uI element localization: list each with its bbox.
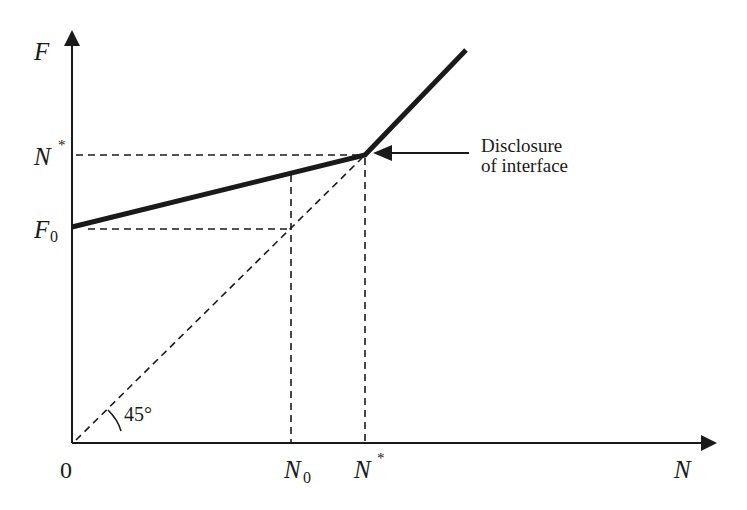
x-tick-n0: N 0: [283, 456, 311, 486]
y-axis-arrow-icon: [64, 30, 80, 46]
x-tick-n-star: N *: [353, 450, 385, 483]
arrow-left-icon: [373, 145, 392, 161]
x-axis-label: N: [673, 456, 692, 483]
x-axis: [72, 435, 717, 451]
y-axis: [64, 30, 80, 443]
y-tick-n-star: N *: [33, 137, 66, 170]
annotation-line-1: Disclosure: [481, 135, 562, 156]
y-tick-f0: F 0: [33, 216, 58, 245]
diagram-canvas: F N 0 N * F 0 N 0 N * 45° Disclosure of …: [0, 0, 747, 510]
svg-text:*: *: [58, 137, 66, 153]
svg-text:N: N: [283, 456, 302, 483]
angle-arc-icon: [108, 410, 121, 431]
origin-label: 0: [60, 457, 72, 483]
svg-text:N: N: [33, 143, 52, 170]
y-axis-label: F: [33, 38, 50, 65]
svg-text:0: 0: [50, 228, 58, 245]
svg-text:0: 0: [303, 469, 311, 486]
f-curve: [72, 50, 466, 227]
angle-label: 45°: [124, 403, 152, 425]
svg-text:*: *: [377, 450, 385, 466]
x-axis-arrow-icon: [701, 435, 717, 451]
annotation-line-2: of interface: [481, 155, 568, 176]
svg-text:F: F: [33, 216, 50, 243]
disclosure-annotation: Disclosure of interface: [481, 135, 568, 176]
svg-text:N: N: [353, 456, 372, 483]
disclosure-arrow: [373, 145, 469, 161]
forty-five-degree-line: [76, 158, 362, 440]
